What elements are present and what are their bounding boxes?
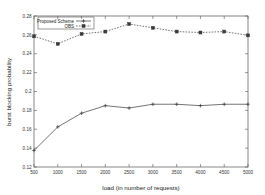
data-point-marker — [151, 26, 154, 29]
data-point-marker — [80, 32, 83, 35]
data-point-marker — [175, 30, 178, 33]
chart-figure: 0.120.140.160.180.20.220.240.260.28 5001… — [0, 0, 265, 195]
y-tick-label: 0.24 — [23, 51, 32, 56]
x-tick-label: 1000 — [53, 170, 64, 175]
data-point-marker — [247, 34, 250, 37]
data-point-marker — [128, 23, 131, 26]
data-point-marker — [223, 30, 226, 33]
y-axis-title: burst blocking probability — [5, 57, 12, 126]
y-tick-label: 0.12 — [23, 165, 32, 170]
x-tick-label: 2000 — [100, 170, 111, 175]
legend-sample-marker-2 — [82, 25, 85, 28]
data-point-marker — [104, 30, 107, 33]
x-tick-label: 4000 — [195, 170, 206, 175]
y-tick-label: 0.22 — [23, 70, 32, 75]
chart-canvas: 0.120.140.160.180.20.220.240.260.28 5001… — [0, 0, 265, 195]
data-point-marker — [199, 31, 202, 34]
x-tick-label: 1500 — [76, 170, 87, 175]
y-tick-label: 0.16 — [23, 127, 32, 132]
x-tick-label: 3500 — [172, 170, 183, 175]
data-point-marker — [56, 42, 59, 45]
y-tick-label: 0.26 — [23, 33, 32, 38]
y-tick-label: 0.28 — [23, 14, 32, 19]
x-tick-label: 3000 — [148, 170, 159, 175]
x-tick-label: 4500 — [219, 170, 230, 175]
y-tick-label: 0.2 — [25, 89, 32, 94]
y-tick-label: 0.14 — [23, 146, 32, 151]
data-point-marker — [33, 35, 36, 38]
legend-label-2: OBS — [64, 24, 74, 29]
x-tick-label: 5000 — [243, 170, 254, 175]
y-tick-label: 0.18 — [23, 108, 32, 113]
x-axis-title: load (in number of requests) — [102, 184, 179, 191]
x-tick-label: 500 — [30, 170, 38, 175]
x-tick-label: 2500 — [124, 170, 135, 175]
